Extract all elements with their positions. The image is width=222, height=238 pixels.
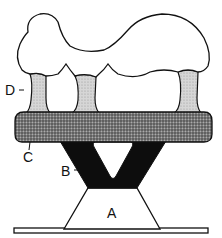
- label-a: A: [107, 205, 117, 221]
- label-b: B: [61, 163, 70, 179]
- part-d-columns: [26, 70, 201, 113]
- label-d: D: [5, 82, 15, 98]
- label-c: C: [23, 149, 33, 165]
- top-mass: [17, 14, 209, 77]
- part-c-band: [15, 112, 212, 142]
- part-b-v-support: [60, 141, 166, 188]
- diagram: D C B A: [0, 0, 222, 238]
